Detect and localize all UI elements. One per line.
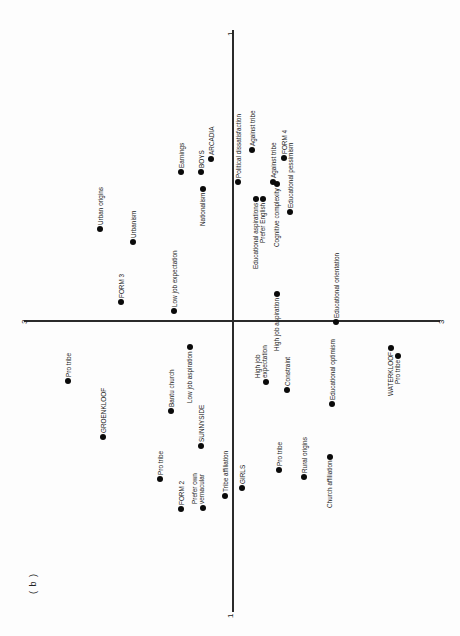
point-marker-icon [274,181,280,187]
point-label: Tribe affiliation [222,451,229,492]
point-label: Prefer English [259,203,266,243]
point-marker-icon [239,485,245,491]
point-marker-icon [198,169,204,175]
point-label: Church affiliation [326,461,333,508]
point-label: Prefer ownvernacular [191,473,205,504]
point-marker-icon [287,209,293,215]
point-label-line: Pro tribe [65,353,72,377]
point-label: High job aspiration [273,298,280,351]
panel-label: ( b ) [28,573,38,594]
point-marker-icon [178,169,184,175]
point-label-line: vernacular [198,473,205,504]
point-label-line: GROENKLOOF [100,388,107,433]
axis-3-right-label: 3 [437,320,446,324]
point-label-line: Urbanism [130,211,137,238]
axis-1-top-label: 1 [226,32,235,36]
point-label: High jobexpectation [254,345,268,378]
point-label: Rural origins [301,437,308,473]
point-label-line: Educational optimism [329,339,336,400]
point-marker-icon [301,474,307,480]
point-label-line: GIRLS [239,465,246,484]
point-marker-icon [263,379,269,385]
point-label-line: FORM 3 [118,274,125,298]
point-label-line: Pro tribe [394,360,401,384]
point-marker-icon [187,344,193,350]
point-label-line: High job aspiration [273,298,280,351]
point-label: ARCADIA [208,127,215,155]
point-label-line: Nationalism [199,193,206,226]
point-marker-icon [65,378,71,384]
point-label-line: Pro tribe [276,442,283,466]
point-label: Pro tribe [157,451,164,475]
point-label-line: FORM 2 [178,481,185,505]
point-marker-icon [274,291,280,297]
point-marker-icon [249,147,255,153]
point-label-line: Urban origins [97,187,104,225]
axis-1-bottom-label: 1 [226,614,235,618]
point-label-line: WATERKLOOF [387,352,394,396]
point-label: Pro tribe [65,353,72,377]
point-label-line: Constraint [284,357,291,386]
point-marker-icon [276,467,282,473]
point-label: Educational optimism [329,339,336,400]
point-label: Against tribe [249,110,256,146]
point-label-line: Educational pessimism [287,143,294,208]
point-label-line: Educational orientation [333,253,340,318]
point-marker-icon [327,454,333,460]
point-marker-icon [222,493,228,499]
point-label: Educational pessimism [287,143,294,208]
point-label-line: Church affiliation [326,461,333,508]
point-marker-icon [284,387,290,393]
point-label-line: Rural origins [301,437,308,473]
point-label: Educational orientation [333,253,340,318]
point-label: Urban origins [97,187,104,225]
point-marker-icon [235,179,241,185]
point-label: Educational aspirations [252,203,259,269]
point-label: GROENKLOOF [100,388,107,433]
point-marker-icon [118,299,124,305]
point-label: GIRLS [239,465,246,484]
point-label-line: Cognitive complexity [273,188,280,247]
point-label-line: Against tribe [270,142,277,178]
point-label: Low job aspiration [186,351,193,403]
point-label: FORM 3 [118,274,125,298]
point-label: Nationalism [199,193,206,226]
point-label-line: Educational aspirations [252,203,259,269]
point-label: Urbanism [130,211,137,238]
point-label-line: SUNNYSIDE [198,405,205,442]
axis-dimension-3 [24,320,440,322]
point-marker-icon [333,319,339,325]
point-label-line: Bantu church [168,369,175,407]
point-label: Cognitive complexity [273,188,280,247]
point-label: Bantu church [168,369,175,407]
figure-page: ( b ) 1 1 3 3 Urban originsUrbanismFORM … [0,0,460,636]
point-label: Political dissatisfaction [235,114,242,178]
point-label: FORM 2 [178,481,185,505]
point-label: Pro tribe [276,442,283,466]
point-label: Constraint [284,357,291,386]
point-label-line: Low job aspiration [186,351,193,403]
point-marker-icon [171,308,177,314]
point-label: Earnings [178,143,185,168]
point-marker-icon [253,196,259,202]
point-marker-icon [157,476,163,482]
point-label: BOYS [198,150,205,168]
point-label-line: Prefer English [259,203,266,243]
point-marker-icon [178,506,184,512]
point-marker-icon [168,408,174,414]
point-marker-icon [208,156,214,162]
point-marker-icon [97,226,103,232]
point-label-line: ARCADIA [208,127,215,155]
point-marker-icon [100,434,106,440]
point-label-line: Earnings [178,143,185,168]
axis-3-left-label: 3 [20,320,29,324]
point-label-line: BOYS [198,150,205,168]
point-label: SUNNYSIDE [198,405,205,442]
point-label: Pro tribe [394,360,401,384]
point-label-line: Low job expectation [171,251,178,308]
point-label-line: Prefer own [191,473,198,504]
point-marker-icon [198,443,204,449]
point-label-line: expectation [261,345,268,378]
point-label-line: Against tribe [249,110,256,146]
point-label-line: Political dissatisfaction [235,114,242,178]
